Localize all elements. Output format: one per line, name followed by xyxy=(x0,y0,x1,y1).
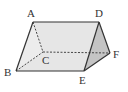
label-F: F xyxy=(113,48,119,60)
label-A: A xyxy=(27,7,35,19)
label-B: B xyxy=(4,66,11,78)
label-D: D xyxy=(95,7,103,19)
label-E: E xyxy=(79,74,86,86)
triangular-prism-diagram: A B C D E F xyxy=(0,0,128,92)
label-C: C xyxy=(42,54,49,66)
